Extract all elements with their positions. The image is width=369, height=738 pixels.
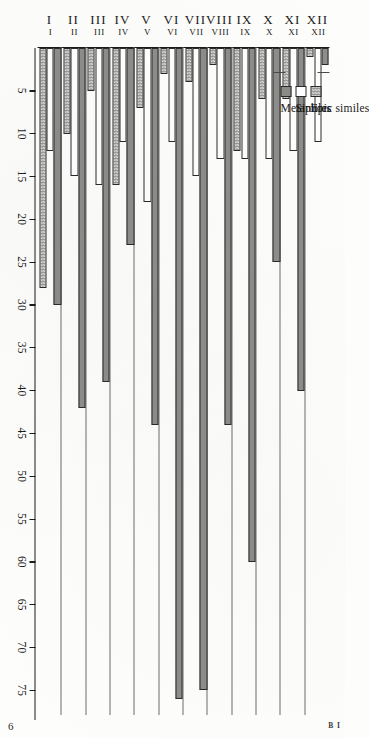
axis-tick-label: 25 [15,246,27,278]
axis-tick-label: 20 [15,203,27,235]
value-axis-baseline [34,48,35,720]
bar-vi-epic [160,48,167,74]
legend-rule [273,72,285,73]
bar-iv-epic [112,48,119,185]
axis-numeral-viii: VIII [207,27,235,37]
axis-tick-label: 60 [15,546,27,578]
bar-iv-simile [119,48,126,142]
axis-tick-label: 30 [15,289,27,321]
axis-numeral-v: V [134,27,162,37]
legend-rule [317,72,329,73]
bar-i-epic [39,48,46,288]
axis-tick-label: 5 [15,75,27,107]
bar-ix-simile [241,48,248,159]
category-label-xii: XII [297,12,337,28]
bar-v-epic [136,48,143,108]
bar-x-metaphor [272,48,279,262]
bar-viii-epic [209,48,216,65]
page-folio: 6 [8,720,14,732]
bar-i-metaphor [53,48,60,305]
bar-vi-simile [168,48,175,142]
bar-xi-simile [289,48,296,151]
axis-tick-label: 65 [15,589,27,621]
bar-v-metaphor [151,48,158,425]
bar-vii-epic [185,48,192,82]
legend-label-metaphor: Metaphors [280,102,331,114]
bar-iii-epic [87,48,94,91]
bar-vi-metaphor [175,48,182,699]
bar-ii-simile [70,48,77,176]
axis-tick-label: 55 [15,503,27,535]
axis-tick-label: 70 [15,631,27,663]
axis-tick-label: 75 [15,674,27,706]
axis-numeral-ii: II [61,27,89,37]
legend-swatch-metaphor [280,86,291,97]
running-head: B I [328,721,341,730]
bar-xii-epic [306,48,313,57]
bar-ii-epic [63,48,70,134]
axis-tick-label: 35 [15,332,27,364]
bar-viii-metaphor [224,48,231,425]
bar-iii-metaphor [102,48,109,382]
bar-x-epic [258,48,265,99]
bar-ix-metaphor [248,48,255,562]
bar-v-simile [143,48,150,202]
bar-i-simile [46,48,53,151]
axis-numeral-xi: XI [280,27,308,37]
bar-iv-metaphor [126,48,133,245]
bar-ix-epic [233,48,240,151]
bar-xii-metaphor [321,48,328,65]
axis-tick-label: 40 [15,375,27,407]
legend-swatch-epic [310,86,321,97]
bar-xi-metaphor [297,48,304,391]
axis-tick-label: 45 [15,417,27,449]
axis-tick-label: 50 [15,460,27,492]
legend-swatch-simile [295,86,306,97]
axis-tick-label: 15 [15,160,27,192]
bar-vii-simile [192,48,199,176]
bar-iii-simile [95,48,102,185]
bar-viii-simile [216,48,223,159]
bar-vii-metaphor [199,48,206,690]
axis-numeral-xii: XII [304,27,332,37]
bar-x-simile [265,48,272,159]
bar-ii-metaphor [78,48,85,408]
axis-tick-label: 10 [15,118,27,150]
